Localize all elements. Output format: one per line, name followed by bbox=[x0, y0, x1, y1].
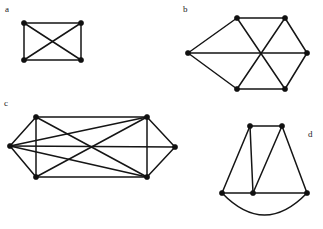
graph-vertex bbox=[219, 190, 224, 195]
panel-label-b: b bbox=[183, 5, 188, 14]
graph-edge bbox=[10, 146, 147, 177]
graph-vertex bbox=[234, 86, 239, 91]
figure-sheet: a b c d bbox=[0, 0, 323, 229]
graph-vertex bbox=[304, 50, 309, 55]
graph-vertex bbox=[21, 57, 26, 62]
graph-vertex bbox=[282, 15, 287, 20]
graph-d bbox=[219, 123, 309, 215]
graph-vertex bbox=[144, 114, 149, 119]
graph-edge bbox=[282, 126, 307, 193]
graph-vertex bbox=[7, 143, 12, 148]
graph-c bbox=[7, 114, 177, 179]
panel-label-c: c bbox=[4, 99, 8, 108]
graph-edge bbox=[250, 126, 253, 193]
graph-vertex bbox=[234, 15, 239, 20]
panel-label-a: a bbox=[5, 5, 9, 14]
panel-label-d: d bbox=[308, 130, 313, 139]
graph-vertex bbox=[78, 57, 83, 62]
graph-vertex bbox=[33, 114, 38, 119]
graph-vertex bbox=[21, 20, 26, 25]
graph-edge bbox=[188, 53, 237, 89]
graph-vertex bbox=[172, 144, 177, 149]
graph-vertex bbox=[185, 50, 190, 55]
graph-edge bbox=[253, 126, 282, 193]
graph-vertex bbox=[282, 86, 287, 91]
graph-edge bbox=[285, 18, 307, 53]
graph-edge bbox=[10, 117, 147, 146]
graph-vertex bbox=[33, 174, 38, 179]
graph-vertex bbox=[78, 20, 83, 25]
graph-edge bbox=[285, 53, 307, 89]
graph-figures-svg bbox=[0, 0, 323, 229]
graph-vertex bbox=[247, 123, 252, 128]
graph-vertex bbox=[144, 174, 149, 179]
graph-edge bbox=[147, 117, 175, 147]
graph-b bbox=[185, 15, 309, 91]
graph-vertex bbox=[250, 190, 255, 195]
graph-edge bbox=[147, 147, 175, 177]
graph-edge bbox=[188, 18, 237, 53]
graph-vertex bbox=[279, 123, 284, 128]
graph-edge-arc bbox=[222, 193, 307, 215]
graph-edge bbox=[222, 126, 250, 193]
graph-vertex bbox=[304, 190, 309, 195]
graph-a bbox=[21, 20, 83, 62]
